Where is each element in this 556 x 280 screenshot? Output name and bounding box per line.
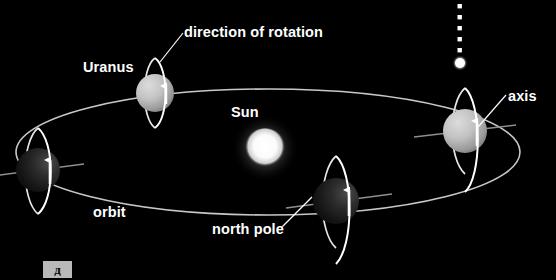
planet-sphere [16, 148, 60, 192]
label-north-pole: north pole [212, 222, 284, 237]
diagram-canvas [0, 0, 556, 280]
label-direction-of-rotation: direction of rotation [184, 25, 323, 40]
planet-sphere [136, 74, 174, 112]
sun [231, 114, 299, 182]
marker-dot [458, 15, 462, 19]
corner-figure-tab: д [43, 261, 72, 278]
uranus-orbit-diagram: direction of rotation Uranus Sun axis or… [0, 0, 556, 280]
label-axis: axis [508, 89, 537, 104]
label-orbit: orbit [93, 205, 126, 220]
sun-disc [245, 128, 285, 168]
marker-dot [458, 26, 462, 30]
marker-dot [458, 48, 462, 52]
label-sun: Sun [231, 105, 259, 120]
label-uranus: Uranus [83, 60, 134, 75]
pole-star-icon [455, 58, 465, 68]
planet-sphere [443, 109, 487, 153]
marker-dot [458, 37, 462, 41]
planet-sphere [313, 178, 359, 224]
marker-dot [458, 4, 462, 8]
